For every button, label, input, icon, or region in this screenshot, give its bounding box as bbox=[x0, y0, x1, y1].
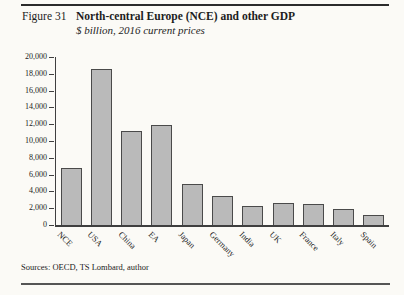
y-tick-mark bbox=[49, 57, 54, 58]
source-note: Sources: OECD, TS Lombard, author bbox=[21, 262, 149, 272]
x-label-uk: UK bbox=[268, 230, 283, 245]
bar-uk bbox=[273, 203, 294, 225]
y-tick-mark bbox=[49, 107, 54, 108]
y-tick-label-6000: 6,000 bbox=[13, 170, 47, 180]
bottom-rule bbox=[21, 283, 390, 285]
figure-number: Figure 31 bbox=[22, 10, 66, 23]
y-tick-label-14000: 14,000 bbox=[13, 102, 47, 112]
x-label-france: France bbox=[298, 230, 321, 253]
x-label-italy: Italy bbox=[328, 230, 345, 247]
y-tick-label-4000: 4,000 bbox=[13, 186, 47, 196]
bar-germany bbox=[212, 196, 233, 225]
figure-page: Figure 31 North-central Europe (NCE) and… bbox=[0, 0, 404, 295]
figure-header: North-central Europe (NCE) and other GDP… bbox=[76, 10, 386, 36]
top-rule bbox=[21, 4, 389, 6]
y-tick-mark bbox=[49, 208, 54, 209]
x-label-usa: USA bbox=[86, 230, 104, 248]
y-tick-label-16000: 16,000 bbox=[13, 86, 47, 96]
y-tick-mark bbox=[49, 141, 54, 142]
y-tick-mark bbox=[49, 91, 54, 92]
chart-subtitle: $ billion, 2016 current prices bbox=[76, 24, 386, 36]
y-tick-mark bbox=[49, 191, 54, 192]
x-label-germany: Germany bbox=[207, 230, 236, 259]
bar-spain bbox=[363, 215, 384, 225]
bar-china bbox=[121, 131, 142, 225]
x-label-china: China bbox=[116, 230, 137, 251]
bar-ea bbox=[151, 125, 172, 225]
x-label-japan: Japan bbox=[177, 230, 197, 250]
bar-japan bbox=[182, 184, 203, 225]
x-label-india: India bbox=[237, 230, 256, 249]
y-tick-label-20000: 20,000 bbox=[13, 52, 47, 62]
y-tick-mark bbox=[49, 158, 54, 159]
chart-title: North-central Europe (NCE) and other GDP bbox=[76, 10, 386, 23]
y-tick-mark bbox=[49, 225, 54, 226]
x-label-nce: NCE bbox=[56, 230, 74, 248]
y-tick-mark bbox=[49, 175, 54, 176]
y-tick-mark bbox=[49, 124, 54, 125]
plot-area bbox=[55, 57, 389, 227]
y-tick-label-12000: 12,000 bbox=[13, 119, 47, 129]
y-tick-label-8000: 8,000 bbox=[13, 153, 47, 163]
y-tick-label-0: 0 bbox=[13, 220, 47, 230]
bar-usa bbox=[91, 69, 112, 225]
bar-india bbox=[242, 206, 263, 225]
y-tick-label-2000: 2,000 bbox=[13, 203, 47, 213]
y-tick-mark bbox=[49, 74, 54, 75]
bar-italy bbox=[333, 209, 354, 225]
bar-nce bbox=[61, 168, 82, 225]
x-label-ea: EA bbox=[147, 230, 161, 244]
x-label-spain: Spain bbox=[358, 230, 378, 250]
bar-france bbox=[303, 204, 324, 225]
y-tick-label-18000: 18,000 bbox=[13, 69, 47, 79]
y-tick-label-10000: 10,000 bbox=[13, 136, 47, 146]
